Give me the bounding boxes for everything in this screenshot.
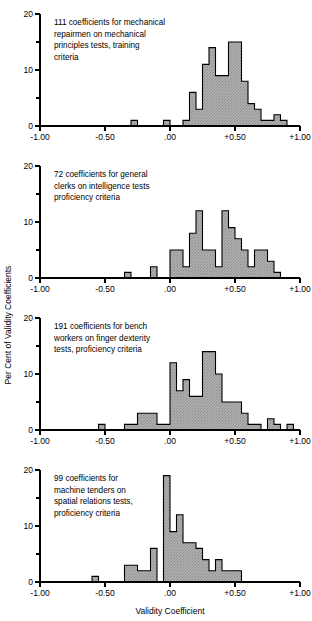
panel-1: -1.00-0.50.00+0.50+1.0001020111 coeffici…	[24, 9, 311, 142]
caption-line: proficiency criteria	[54, 509, 120, 518]
x-tick-label: -0.50	[95, 436, 115, 446]
y-tick-label: 0	[28, 121, 33, 131]
y-tick-label: 10	[24, 521, 34, 531]
panel-caption: 72 coefficients for generalclerks on int…	[54, 170, 150, 202]
y-tick-label: 20	[24, 465, 34, 475]
caption-line: 191 coefficients for bench	[54, 322, 148, 331]
caption-line: principles tests, training	[54, 41, 140, 50]
figure-canvas: -1.00-0.50.00+0.50+1.0001020111 coeffici…	[0, 0, 312, 621]
y-tick-label: 10	[24, 217, 34, 227]
caption-line: 72 coefficients for general	[54, 170, 148, 179]
x-tick-label: +0.50	[224, 132, 246, 142]
panel-3: -1.00-0.50.00+0.50+1.0001020191 coeffici…	[24, 313, 311, 446]
x-tick-label: +0.50	[224, 436, 246, 446]
histogram-figure: -1.00-0.50.00+0.50+1.0001020111 coeffici…	[0, 0, 312, 621]
x-tick-label: -0.50	[95, 588, 115, 598]
x-tick-label: +1.00	[289, 588, 311, 598]
x-tick-label: +1.00	[289, 132, 311, 142]
x-tick-label: -1.00	[30, 132, 50, 142]
panel-caption: 191 coefficients for benchworkers on fin…	[53, 322, 151, 354]
caption-line: 99 coefficients for	[54, 474, 118, 483]
x-tick-label: -1.00	[30, 588, 50, 598]
x-tick-label: +1.00	[289, 436, 311, 446]
caption-line: repairmen on mechanical	[54, 30, 146, 39]
y-tick-label: 0	[28, 577, 33, 587]
panel-2: -1.00-0.50.00+0.50+1.000102072 coefficie…	[24, 161, 311, 294]
x-tick-label: +1.00	[289, 284, 311, 294]
y-tick-label: 0	[28, 425, 33, 435]
x-tick-label: +0.50	[224, 588, 246, 598]
x-tick-label: -0.50	[95, 284, 115, 294]
caption-line: 111 coefficients for mechanical	[54, 18, 165, 27]
x-tick-label: +0.50	[224, 284, 246, 294]
histogram-outline	[40, 352, 300, 430]
y-tick-label: 10	[24, 369, 34, 379]
panel-caption: 111 coefficients for mechanicalrepairmen…	[54, 18, 165, 62]
x-tick-label: .00	[164, 132, 176, 142]
histogram-outline	[40, 42, 300, 126]
y-tick-label: 10	[24, 65, 34, 75]
y-tick-label: 20	[24, 313, 34, 323]
x-tick-label: -0.50	[95, 132, 115, 142]
y-tick-label: 20	[24, 9, 34, 19]
caption-line: tests, proficiency criteria	[54, 345, 142, 354]
x-tick-label: .00	[164, 436, 176, 446]
x-tick-label: -1.00	[30, 436, 50, 446]
caption-line: spatial relations tests,	[54, 497, 133, 506]
x-tick-label: -1.00	[30, 284, 50, 294]
panel-caption: 99 coefficients formachine tenders onspa…	[54, 474, 133, 518]
y-tick-label: 20	[24, 161, 34, 171]
x-tick-label: .00	[164, 588, 176, 598]
caption-line: workers on finger dexterity	[53, 334, 151, 343]
x-tick-label: .00	[164, 284, 176, 294]
caption-line: criteria	[54, 53, 79, 62]
panel-group: -1.00-0.50.00+0.50+1.0001020111 coeffici…	[24, 9, 311, 598]
panel-4: -1.00-0.50.00+0.50+1.000102099 coefficie…	[24, 465, 311, 598]
caption-line: machine tenders on	[54, 486, 126, 495]
y-axis-label: Per Cent of Validity Coefficients	[3, 266, 13, 385]
caption-line: proficiency criteria	[54, 193, 120, 202]
x-axis-label: Validity Coefficient	[135, 606, 205, 616]
caption-line: clerks on intelligence tests	[54, 182, 150, 191]
y-tick-label: 0	[28, 273, 33, 283]
